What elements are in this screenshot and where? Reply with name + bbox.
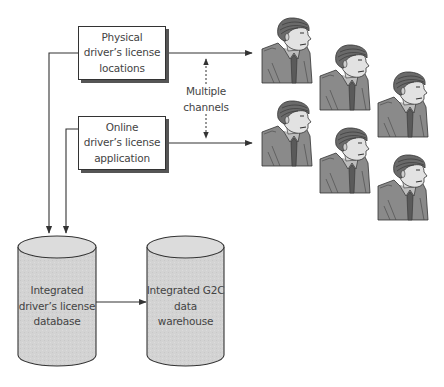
label-line: driver’s license xyxy=(84,45,161,61)
person-icon xyxy=(262,101,312,166)
multiple-channels-label: Multiple channels xyxy=(176,84,236,115)
box-online-label: Online driver’s license application xyxy=(84,120,161,167)
label-line: application xyxy=(84,151,161,167)
label-line: channels xyxy=(176,100,236,116)
label-line: data xyxy=(145,299,226,315)
label-line: Physical xyxy=(84,30,161,46)
person-icon xyxy=(378,155,428,220)
label-line: driver’s license xyxy=(84,135,161,151)
label-line: driver’s license xyxy=(18,299,96,315)
label-line: warehouse xyxy=(145,314,226,330)
label-line: Online xyxy=(84,120,161,136)
connector-online-to-db xyxy=(66,129,78,233)
person-icon xyxy=(262,18,312,83)
label-line: Integrated G2C xyxy=(145,283,226,299)
person-icon xyxy=(320,45,370,110)
label-line: locations xyxy=(84,61,161,77)
person-icon xyxy=(320,128,370,193)
database-license-label: Integrated driver’s license database xyxy=(18,283,96,330)
label-line: database xyxy=(18,314,96,330)
citizens-group xyxy=(262,18,428,220)
box-physical-locations: Physical driver’s license locations xyxy=(78,26,166,80)
box-online-application: Online driver’s license application xyxy=(78,116,166,170)
connector-physical-to-db xyxy=(49,53,78,233)
label-line: Multiple xyxy=(176,84,236,100)
warehouse-label: Integrated G2C data warehouse xyxy=(145,283,226,330)
label-line: Integrated xyxy=(18,283,96,299)
person-icon xyxy=(378,72,428,137)
box-physical-label: Physical driver’s license locations xyxy=(84,30,161,77)
